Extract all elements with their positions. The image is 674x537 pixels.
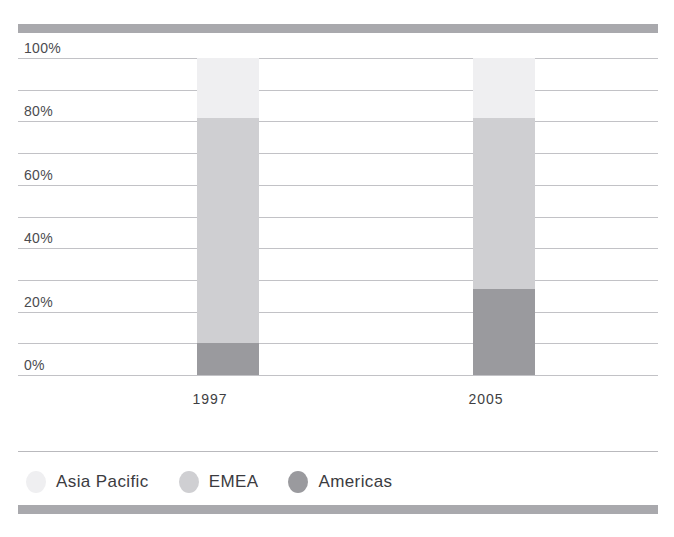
legend-label: Asia Pacific	[56, 472, 149, 492]
legend-swatch-icon	[179, 471, 199, 493]
plot-area	[18, 58, 658, 375]
gridline	[18, 121, 658, 122]
bar-1997	[197, 58, 259, 375]
x-axis-label-2005: 2005	[426, 391, 546, 407]
cropped-text-sliver	[24, 0, 324, 10]
legend-swatch-icon	[26, 471, 46, 493]
y-axis-tick-20: 20%	[24, 294, 53, 310]
gridline	[18, 217, 658, 218]
legend-label: EMEA	[209, 472, 259, 492]
x-axis-label-1997: 1997	[150, 391, 270, 407]
bar-segment-americas	[197, 343, 259, 375]
y-axis-tick-40: 40%	[24, 230, 53, 246]
gridline	[18, 153, 658, 154]
top-rule	[18, 24, 658, 33]
bar-segment-asia-pacific	[473, 58, 535, 118]
y-axis-tick-0: 0%	[24, 357, 45, 373]
chart-container: 100%80%60%40%20%0% 1997 2005 Asia Pacifi…	[0, 0, 674, 537]
gridline	[18, 375, 658, 376]
gridline	[18, 58, 658, 59]
bar-2005	[473, 58, 535, 375]
chart-legend: Asia PacificEMEAAmericas	[26, 466, 393, 498]
legend-label: Americas	[318, 472, 392, 492]
gridline	[18, 90, 658, 91]
y-axis-tick-80: 80%	[24, 103, 53, 119]
gridline	[18, 185, 658, 186]
legend-item-emea[interactable]: EMEA	[179, 471, 259, 493]
bar-segment-emea	[197, 118, 259, 343]
gridline	[18, 343, 658, 344]
y-axis-tick-60: 60%	[24, 167, 53, 183]
y-axis-tick-100: 100%	[24, 40, 61, 56]
bottom-rule	[18, 505, 658, 514]
gridline	[18, 312, 658, 313]
bar-segment-emea	[473, 118, 535, 289]
legend-swatch-icon	[288, 471, 308, 493]
gridline	[18, 248, 658, 249]
legend-divider	[18, 451, 658, 452]
bar-segment-americas	[473, 289, 535, 375]
bar-segment-asia-pacific	[197, 58, 259, 118]
gridline	[18, 280, 658, 281]
legend-item-americas[interactable]: Americas	[288, 471, 392, 493]
legend-item-asia-pacific[interactable]: Asia Pacific	[26, 471, 149, 493]
